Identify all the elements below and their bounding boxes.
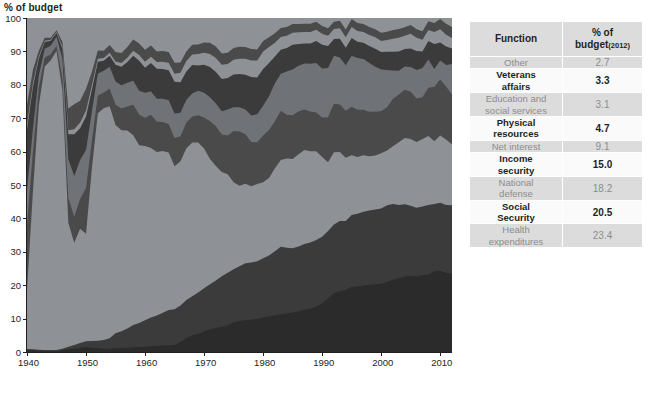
table-header-row: Function % of budget(2012) bbox=[470, 22, 642, 57]
y-tick-label: 30 bbox=[10, 246, 21, 257]
function-label-line: Health bbox=[502, 224, 529, 235]
percent-cell: 18.2 bbox=[563, 176, 643, 200]
column-header-function: Function bbox=[470, 22, 563, 57]
percent-cell: 15.0 bbox=[563, 153, 643, 177]
y-tick-label: 40 bbox=[10, 213, 21, 224]
table-row: Healthexpenditures23.4 bbox=[470, 224, 642, 247]
function-cell: Net interest bbox=[470, 140, 563, 152]
percent-cell: 2.7 bbox=[563, 57, 643, 69]
x-tick-label: 2010 bbox=[431, 357, 452, 368]
x-tick-label: 1960 bbox=[136, 357, 157, 368]
function-cell: Healthexpenditures bbox=[470, 224, 563, 247]
function-label-line: Social bbox=[502, 201, 530, 212]
budget-table: Function % of budget(2012) Other2.7Veter… bbox=[470, 22, 642, 247]
function-label-line: Net interest bbox=[492, 141, 541, 152]
y-tick-label: 60 bbox=[10, 146, 21, 157]
x-tick-label: 1970 bbox=[195, 357, 216, 368]
function-label-line: Security bbox=[497, 212, 535, 223]
y-tick-label: 90 bbox=[10, 46, 21, 57]
chart-bands bbox=[27, 18, 452, 354]
percent-cell: 3.3 bbox=[563, 69, 643, 93]
y-tick-label: 80 bbox=[10, 79, 21, 90]
function-label-line: Veterans bbox=[496, 69, 536, 80]
table-head: Function % of budget(2012) bbox=[470, 22, 642, 57]
table-row: Other2.7 bbox=[470, 57, 642, 69]
chart-svg: 0102030405060708090100194019501960197019… bbox=[0, 14, 462, 384]
percent-cell: 4.7 bbox=[563, 116, 643, 140]
percent-cell: 23.4 bbox=[563, 224, 643, 247]
function-cell: Incomesecurity bbox=[470, 153, 563, 177]
percent-header-line2: budget bbox=[575, 39, 608, 50]
function-label-line: social services bbox=[485, 105, 547, 116]
function-cell: SocialSecurity bbox=[470, 200, 563, 224]
x-tick-label: 1980 bbox=[254, 357, 275, 368]
table-row: Veteransaffairs3.3 bbox=[470, 69, 642, 93]
function-cell: Veteransaffairs bbox=[470, 69, 563, 93]
table-row: SocialSecurity20.5 bbox=[470, 200, 642, 224]
table-row: Education andsocial services3.1 bbox=[470, 93, 642, 117]
percent-cell: 20.5 bbox=[563, 200, 643, 224]
function-cell: Other bbox=[470, 57, 563, 69]
x-tick-label: 1950 bbox=[77, 357, 98, 368]
table-row: Nationaldefense18.2 bbox=[470, 176, 642, 200]
y-tick-label: 50 bbox=[10, 180, 21, 191]
function-label-line: Physical bbox=[497, 117, 536, 128]
y-axis-title: % of budget bbox=[4, 2, 62, 13]
x-tick-label: 1990 bbox=[313, 357, 334, 368]
function-label-line: security bbox=[498, 165, 534, 176]
y-tick-label: 70 bbox=[10, 113, 21, 124]
function-label-line: Education and bbox=[486, 93, 547, 104]
table-row: Incomesecurity15.0 bbox=[470, 153, 642, 177]
y-tick-label: 20 bbox=[10, 280, 21, 291]
percent-cell: 3.1 bbox=[563, 93, 643, 117]
x-tick-label: 2000 bbox=[372, 357, 393, 368]
percent-header-year: (2012) bbox=[608, 41, 630, 50]
table-body: Other2.7Veteransaffairs3.3Education ands… bbox=[470, 57, 642, 248]
percent-header-line1: % of bbox=[592, 27, 613, 38]
function-label-line: expenditures bbox=[489, 236, 543, 247]
x-tick-label: 1940 bbox=[18, 357, 39, 368]
y-tick-label: 0 bbox=[16, 347, 21, 358]
column-header-percent: % of budget(2012) bbox=[563, 22, 643, 57]
stacked-area-chart: % of budget 0102030405060708090100194019… bbox=[0, 0, 462, 397]
percent-cell: 9.1 bbox=[563, 140, 643, 152]
table-row: Physicalresources4.7 bbox=[470, 116, 642, 140]
function-label-line: resources bbox=[493, 128, 538, 139]
function-label-line: affairs bbox=[502, 81, 531, 92]
function-label-line: Income bbox=[499, 153, 532, 164]
function-label-line: defense bbox=[499, 188, 533, 199]
y-tick-label: 100 bbox=[5, 14, 21, 24]
budget-legend-table: Function % of budget(2012) Other2.7Veter… bbox=[470, 22, 641, 247]
figure-root: % of budget 0102030405060708090100194019… bbox=[0, 0, 651, 397]
y-tick-label: 10 bbox=[10, 313, 21, 324]
function-cell: Nationaldefense bbox=[470, 176, 563, 200]
table-row: Net interest9.1 bbox=[470, 140, 642, 152]
function-label-line: National bbox=[499, 177, 534, 188]
function-label-line: Other bbox=[504, 57, 528, 68]
function-cell: Education andsocial services bbox=[470, 93, 563, 117]
function-cell: Physicalresources bbox=[470, 116, 563, 140]
